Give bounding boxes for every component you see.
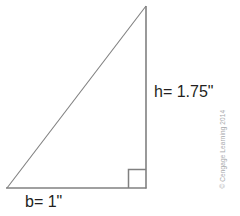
base-dimension-label: b= 1" [25, 193, 62, 211]
triangle-figure: h= 1.75" b= 1" © Cengage Learning 2014 [0, 0, 240, 216]
hypotenuse-line [7, 6, 146, 188]
copyright-credit: © Cengage Learning 2014 [219, 99, 226, 189]
triangle-drawing [0, 0, 240, 216]
height-dimension-label: h= 1.75" [154, 83, 214, 101]
right-angle-marker [129, 170, 147, 189]
